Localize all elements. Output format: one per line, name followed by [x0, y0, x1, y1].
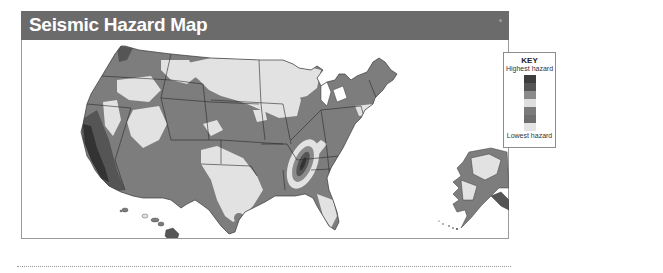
title-bar: Seismic Hazard Map	[21, 11, 509, 40]
key-swatch-6	[524, 83, 536, 91]
key-title: KEY	[504, 56, 555, 65]
key-swatch-5	[524, 91, 536, 99]
hawaii	[120, 208, 179, 238]
contiguous-us	[21, 40, 509, 238]
title-bar-dot	[499, 19, 502, 22]
key-swatch-3	[524, 107, 536, 115]
key-highest-label: Highest hazard	[500, 65, 559, 73]
seismic-hazard-map	[21, 40, 509, 238]
key-swatch-1	[524, 123, 536, 131]
hazard-key: KEY Highest hazard Lowest hazard	[503, 52, 556, 148]
aleutian-islands	[438, 220, 458, 230]
key-swatch-2	[524, 115, 536, 123]
key-swatch-7	[524, 75, 536, 83]
dotted-divider	[17, 266, 511, 267]
map-title: Seismic Hazard Map	[29, 14, 207, 36]
key-lowest-label: Lowest hazard	[500, 132, 559, 140]
key-swatches	[524, 75, 536, 131]
alaska	[453, 148, 509, 228]
key-swatch-4	[524, 99, 536, 107]
